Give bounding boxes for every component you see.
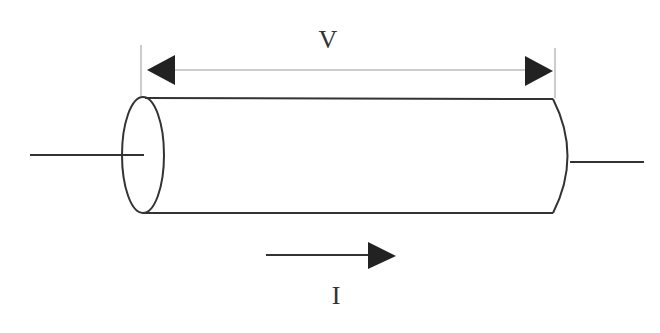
left-arrowhead-icon: [147, 55, 175, 85]
current-arrow: [266, 242, 396, 269]
right-arrowhead-icon: [525, 56, 553, 86]
cylinder-right-end: [553, 99, 568, 213]
resistor-diagram: V I: [0, 0, 660, 333]
voltage-dimension-arrow: [147, 55, 553, 86]
cylinder-body: [122, 97, 568, 213]
current-label: I: [332, 281, 341, 310]
current-arrowhead-icon: [368, 242, 396, 269]
diagram-canvas: V I: [0, 0, 660, 333]
voltage-label: V: [319, 25, 338, 54]
cylinder-top-edge: [145, 98, 553, 99]
